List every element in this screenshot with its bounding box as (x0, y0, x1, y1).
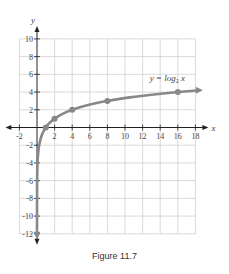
y-tick-label: 8 (29, 53, 33, 62)
x-tick-label: 6 (88, 132, 92, 141)
y-tick-label: -4 (26, 159, 33, 168)
x-axis-arrow-left-icon (5, 125, 11, 130)
x-axis-label: x (210, 123, 215, 133)
function-label: y = log2 x (149, 73, 185, 84)
y-tick-label: 4 (29, 88, 33, 97)
figure-caption: Figure 11.7 (0, 251, 229, 261)
log-graph: -224681012141618108642-2-4-6-8-10-12yxy … (0, 0, 229, 250)
data-point (175, 89, 181, 95)
data-point (69, 107, 75, 113)
y-tick-label: -2 (26, 141, 33, 150)
x-tick-label: 16 (174, 132, 182, 141)
y-axis-arrow-up-icon (35, 26, 40, 32)
x-tick-label: 12 (139, 132, 147, 141)
y-tick-label: 6 (29, 70, 33, 79)
y-tick-label: -8 (26, 194, 33, 203)
y-tick-label: -10 (22, 212, 33, 221)
y-axis-label: y (30, 15, 35, 25)
log-curve (37, 90, 200, 231)
data-point (43, 125, 49, 131)
x-tick-label: 2 (53, 132, 57, 141)
y-tick-label: 2 (29, 106, 33, 115)
data-point (104, 98, 110, 104)
curve-arrow-down-icon (34, 232, 41, 240)
y-tick-label: -12 (22, 230, 33, 239)
data-point (52, 116, 58, 122)
x-tick-label: 18 (191, 132, 199, 141)
x-tick-label: -2 (16, 132, 23, 141)
x-tick-label: 10 (121, 132, 129, 141)
y-tick-label: -6 (26, 177, 33, 186)
y-tick-label: 10 (25, 35, 33, 44)
x-tick-label: 4 (70, 132, 74, 141)
x-axis-arrow-right-icon (202, 125, 208, 130)
x-tick-label: 14 (156, 132, 164, 141)
curve-arrow-right-icon (196, 87, 203, 94)
x-tick-label: 8 (105, 132, 109, 141)
